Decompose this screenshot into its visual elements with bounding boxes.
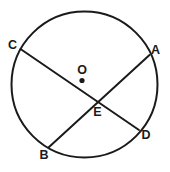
geometry-figure: C A O E D B xyxy=(0,0,170,172)
circle-chords-diagram: C A O E D B xyxy=(0,0,170,172)
label-point-e: E xyxy=(93,105,101,119)
label-point-o: O xyxy=(77,63,87,77)
label-point-c: C xyxy=(8,38,17,52)
label-point-a: A xyxy=(151,43,160,57)
circle-outline xyxy=(12,12,158,158)
label-point-b: B xyxy=(39,148,48,162)
label-point-d: D xyxy=(141,128,150,142)
center-point-dot xyxy=(79,78,84,83)
